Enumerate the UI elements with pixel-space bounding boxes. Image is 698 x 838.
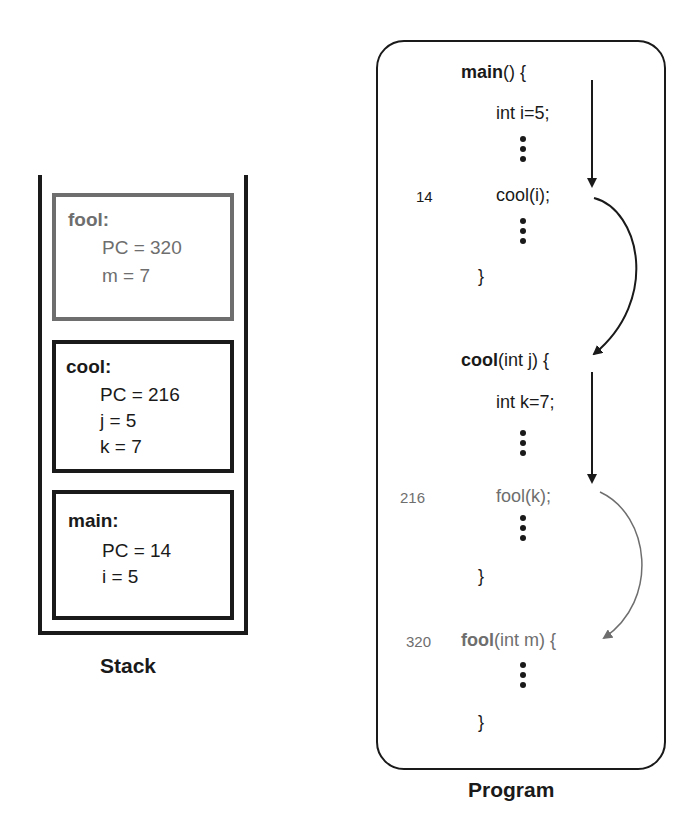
call-arrow-icon (600, 492, 642, 638)
control-flow-arrows (0, 0, 698, 838)
call-arrow-icon (594, 198, 636, 354)
